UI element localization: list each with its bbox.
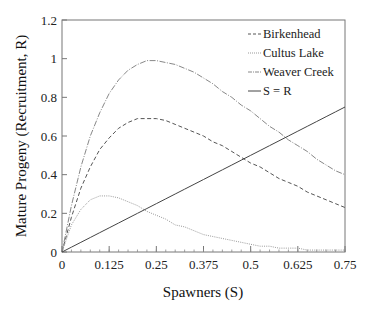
series-cultus-lake [62, 196, 345, 252]
legend-label: Birkenhead [263, 27, 321, 41]
y-tick-label: 0.4 [41, 167, 58, 182]
y-tick-label: 1.2 [41, 13, 57, 28]
y-tick-label: 0.2 [41, 206, 57, 221]
y-axis-ticks: 00.20.40.60.811.2 [41, 13, 67, 260]
legend-item-cultus-lake: Cultus Lake [248, 46, 324, 60]
x-axis-title: Spawners (S) [163, 284, 243, 301]
x-tick-label: 0.625 [283, 257, 312, 272]
x-tick-label: 0.75 [334, 257, 357, 272]
legend: Birkenhead Cultus Lake Weaver Creek S = … [248, 27, 335, 98]
series-weaver-creek [62, 61, 345, 252]
series-s-r [62, 107, 345, 252]
stock-recruitment-chart: 00.1250.250.3750.50.6250.75 00.20.40.60.… [0, 0, 370, 310]
series-layer [62, 61, 345, 252]
y-tick-label: 0 [51, 245, 58, 260]
x-tick-label: 0.375 [189, 257, 218, 272]
y-axis-title: Mature Progeny (Recruitment, R) [13, 35, 30, 237]
x-tick-label: 0 [59, 257, 66, 272]
legend-label: Cultus Lake [263, 46, 324, 60]
x-tick-label: 0.125 [95, 257, 124, 272]
legend-label: Weaver Creek [263, 65, 335, 79]
y-tick-label: 1 [51, 51, 58, 66]
legend-label: S = R [263, 84, 292, 98]
legend-item-birkenhead: Birkenhead [248, 27, 321, 41]
x-tick-label: 0.25 [145, 257, 168, 272]
x-axis-ticks: 00.1250.250.3750.50.6250.75 [59, 246, 357, 272]
y-tick-label: 0.8 [41, 90, 57, 105]
x-tick-label: 0.5 [243, 257, 259, 272]
series-birkenhead [62, 119, 345, 252]
legend-item-s-equals-r: S = R [248, 84, 292, 98]
y-tick-label: 0.6 [41, 129, 58, 144]
legend-item-weaver-creek: Weaver Creek [248, 65, 335, 79]
